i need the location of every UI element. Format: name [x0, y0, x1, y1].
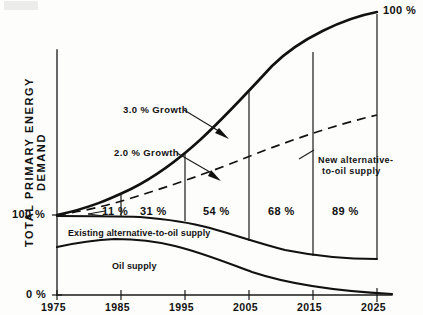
region-label-68pct: 68 % — [268, 205, 295, 217]
leader-line-2pct — [177, 153, 215, 175]
region-label-54pct: 54 % — [203, 205, 230, 217]
annotation-existing-alt-supply: Existing alternative-to-oil supply — [68, 228, 210, 238]
oil-supply-curve — [57, 239, 392, 294]
region-label-89pct: 89 % — [332, 205, 359, 217]
leader-line-new-alt — [299, 150, 314, 159]
region-label-11pct: 11 % — [102, 205, 128, 217]
energy-demand-chart: TOTAL PRIMARY ENERGY DEMAND 100 % 0 % 19… — [0, 0, 423, 315]
leader-line-3pct — [184, 110, 222, 133]
y-axis-label-0: 0 % — [26, 288, 46, 300]
annotation-growth-3pct: 3.0 % Growth — [123, 104, 188, 115]
curve-endpoint-label-100: 100 % — [383, 4, 416, 16]
region-label-31pct: 31 % — [140, 205, 167, 217]
x-axis-label-2015: 2015 — [297, 301, 322, 313]
x-axis-label-2025: 2025 — [361, 301, 386, 313]
x-axis-label-1985: 1985 — [105, 301, 130, 313]
growth-curve-3pct — [57, 12, 377, 215]
x-axis-label-1975: 1975 — [41, 301, 66, 313]
annotation-oil-supply: Oil supply — [112, 261, 157, 271]
annotation-growth-2pct: 2.0 % Growth — [114, 147, 179, 158]
y-axis-title: TOTAL PRIMARY ENERGY DEMAND — [23, 57, 47, 267]
annotation-new-alt-line2: to-oil supply — [322, 166, 381, 177]
x-axis-label-2005: 2005 — [233, 301, 258, 313]
x-axis-label-1995: 1995 — [169, 301, 194, 313]
annotation-new-alt-line1: New alternative- — [318, 155, 393, 166]
y-axis-label-100: 100 % — [12, 208, 45, 220]
